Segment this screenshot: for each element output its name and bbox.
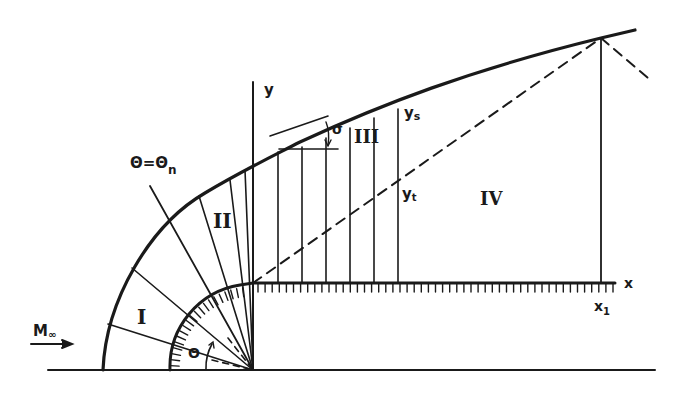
freestream-mach-label: M∞	[33, 322, 56, 340]
hatch-tick	[225, 292, 228, 300]
hatch-tick	[173, 348, 182, 350]
hatch-tick	[186, 321, 193, 326]
hatch-tick	[180, 331, 188, 335]
hatch-tick	[219, 294, 223, 302]
freestream-arrow-head	[62, 340, 72, 348]
y-axis-label: y	[264, 81, 274, 99]
diagram-canvas: M∞ y x x1 ys yt σ Θ Θ=Θn I II III IV	[0, 0, 676, 402]
region-IV-label: IV	[480, 188, 503, 209]
hatch-tick	[175, 342, 183, 345]
characteristic-dashed-line	[253, 38, 601, 283]
sigma-label: σ	[332, 121, 343, 137]
hatch-tick	[171, 360, 180, 361]
hatch-tick	[177, 336, 185, 340]
region-III-label: III	[354, 126, 379, 147]
theta-n-label: Θ=Θn	[130, 154, 177, 177]
hatch-tick	[183, 326, 191, 331]
hatch-tick	[204, 303, 209, 310]
body-hatching	[170, 284, 613, 366]
ys-label: ys	[404, 104, 421, 123]
hatch-tick	[172, 354, 181, 356]
x-axis-label: x	[624, 275, 633, 291]
region-I-label: I	[137, 305, 146, 329]
yt-label: yt	[402, 185, 417, 203]
hatch-tick	[199, 307, 205, 314]
radial-grid-lines	[108, 170, 253, 370]
region-II-label: II	[213, 209, 232, 233]
reflected-dashed-line	[601, 38, 648, 78]
theta-label: Θ	[188, 345, 200, 361]
hatch-tick	[194, 311, 200, 317]
hatch-tick	[209, 300, 214, 308]
x1-label: x1	[594, 298, 610, 317]
bow-shock-curve	[103, 30, 635, 370]
hatch-tick	[237, 289, 239, 298]
